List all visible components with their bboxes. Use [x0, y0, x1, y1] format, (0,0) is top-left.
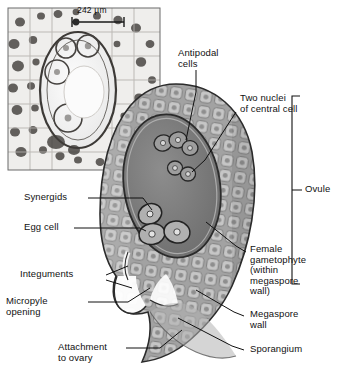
- leader-lines: [0, 0, 352, 371]
- label-two-nuclei: Two nuclei of central cell: [240, 93, 297, 114]
- label-micropyle-opening: Micropyle opening: [6, 296, 48, 317]
- leader-attachment: [126, 330, 182, 348]
- label-attachment-to-ovary: Attachment to ovary: [58, 342, 107, 363]
- label-synergids: Synergids: [24, 192, 67, 203]
- leader-two-nuclei: [192, 112, 236, 172]
- leader-integuments-b: [106, 280, 132, 288]
- label-antipodal-cells: Antipodal cells: [178, 48, 219, 69]
- label-ovule: Ovule: [305, 184, 330, 195]
- label-megaspore-wall: Megaspore wall: [250, 309, 298, 330]
- leader-megaspore-wall: [196, 290, 244, 316]
- label-egg-cell: Egg cell: [24, 222, 59, 233]
- leader-micropyle: [88, 288, 150, 302]
- leader-egg-cell: [74, 228, 146, 231]
- leader-integuments-a: [106, 266, 128, 275]
- leader-antipodal-cells: [186, 70, 196, 140]
- label-female-gametophyte: Female gametophyte (within megaspore wal…: [250, 244, 306, 297]
- ovule-figure: 242 µm: [0, 0, 352, 371]
- label-integuments: Integuments: [20, 269, 73, 280]
- leader-female-gametophyte: [206, 222, 246, 252]
- leader-synergids: [88, 198, 152, 210]
- label-sporangium: Sporangium: [250, 344, 302, 355]
- leader-sporangium: [178, 318, 244, 350]
